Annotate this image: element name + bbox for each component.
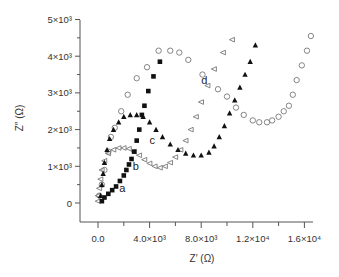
filled-triangle-marker — [199, 152, 204, 157]
open-triangle-marker — [152, 164, 157, 169]
open-triangle-marker — [162, 164, 167, 169]
x-tick-label: 4.0×10³ — [133, 233, 166, 244]
open-circle-marker — [257, 120, 262, 125]
open-triangle-marker — [229, 37, 234, 42]
open-circle-marker — [264, 120, 269, 125]
filled-triangle-marker — [116, 119, 121, 124]
open-triangle-marker — [193, 114, 198, 119]
filled-triangle-marker — [183, 151, 188, 156]
filled-triangle-marker — [107, 136, 112, 141]
open-triangle-marker — [220, 50, 225, 55]
y-tick-label: 1×10³ — [47, 161, 72, 172]
open-triangle-marker — [188, 127, 193, 132]
series-label-b: b — [133, 160, 139, 172]
filled-triangle-marker — [104, 147, 109, 152]
filled-triangle-marker — [191, 152, 196, 157]
open-circle-marker — [250, 118, 255, 123]
series-label-a: a — [119, 182, 126, 194]
filled-square-marker — [134, 138, 139, 143]
filled-triangle-marker — [217, 134, 222, 139]
filled-triangle-marker — [206, 149, 211, 154]
open-circle-marker — [177, 50, 182, 55]
x-tick-label: 8.0×10³ — [185, 233, 218, 244]
series-a — [100, 59, 163, 203]
filled-square-marker — [122, 173, 127, 178]
filled-triangle-marker — [175, 147, 180, 152]
y-tick-label: 5×10³ — [47, 14, 72, 25]
open-circle-marker — [224, 94, 229, 99]
open-circle-marker — [168, 48, 173, 53]
open-circle-marker — [241, 112, 246, 117]
filled-square-marker — [146, 89, 151, 94]
filled-triangle-marker — [153, 127, 158, 132]
filled-triangle-marker — [160, 134, 165, 139]
filled-triangle-marker — [128, 112, 133, 117]
x-tick-label: 0.0 — [91, 233, 104, 244]
open-circle-marker — [233, 105, 238, 110]
open-circle-marker — [299, 63, 304, 68]
open-circle-marker — [308, 33, 313, 38]
y-tick-label: 2×10³ — [47, 124, 72, 135]
open-triangle-marker — [211, 67, 216, 72]
filled-triangle-marker — [121, 114, 126, 119]
open-circle-marker — [290, 92, 295, 97]
series-labels: abcd — [119, 74, 207, 194]
filled-square-marker — [140, 113, 145, 118]
filled-triangle-marker — [222, 123, 227, 128]
y-tick-label: 4×10³ — [47, 51, 72, 62]
open-triangle-marker — [136, 153, 141, 158]
open-triangle-marker — [167, 160, 172, 165]
open-circle-marker — [276, 114, 281, 119]
series-label-d: d — [201, 74, 207, 86]
filled-triangle-marker — [100, 171, 105, 176]
filled-square-marker — [137, 127, 142, 132]
filled-triangle-marker — [232, 97, 237, 102]
tick-labels: 01×10³2×10³3×10³4×10³5×10³0.04.0×10³8.0×… — [47, 14, 321, 244]
open-triangle-marker — [183, 138, 188, 143]
open-circle-marker — [144, 65, 149, 70]
filled-triangle-marker — [248, 59, 253, 64]
open-triangle-marker — [121, 146, 126, 151]
filled-triangle-marker — [211, 143, 216, 148]
open-triangle-marker — [198, 100, 203, 105]
axis-ticks — [75, 20, 304, 229]
open-circle-marker — [294, 77, 299, 82]
open-circle-marker — [186, 57, 191, 62]
open-circle-marker — [119, 109, 124, 114]
filled-triangle-marker — [227, 110, 232, 115]
open-triangle-marker — [126, 146, 131, 151]
x-axis-title: Z′ (Ω) — [190, 253, 215, 264]
y-tick-label: 0 — [67, 198, 72, 209]
open-circle-marker — [286, 103, 291, 108]
filled-triangle-marker — [111, 127, 116, 132]
open-triangle-marker — [173, 155, 178, 160]
open-triangle-marker — [157, 165, 162, 170]
filled-square-marker — [151, 74, 156, 79]
open-circle-marker — [304, 48, 309, 53]
open-triangle-marker — [147, 161, 152, 166]
y-tick-label: 3×10³ — [47, 87, 72, 98]
open-triangle-marker — [95, 199, 100, 204]
filled-square-marker — [158, 59, 163, 64]
filled-square-marker — [114, 184, 119, 189]
filled-triangle-marker — [134, 112, 139, 117]
x-tick-label: 1.2×10⁴ — [236, 233, 269, 244]
filled-square-marker — [142, 103, 147, 108]
open-circle-marker — [215, 87, 220, 92]
filled-square-marker — [124, 168, 129, 173]
filled-triangle-marker — [242, 72, 247, 77]
open-triangle-marker — [98, 177, 103, 182]
filled-triangle-marker — [237, 84, 242, 89]
open-circle-marker — [125, 92, 130, 97]
open-circle-marker — [156, 48, 161, 53]
axes — [80, 20, 313, 222]
series-b — [95, 37, 234, 203]
x-tick-label: 1.6×10⁴ — [288, 233, 321, 244]
y-axis-title: Z″ (Ω) — [14, 105, 25, 132]
filled-triangle-marker — [253, 42, 258, 47]
open-circle-marker — [281, 109, 286, 114]
open-triangle-marker — [142, 157, 147, 162]
nyquist-chart: 01×10³2×10³3×10³4×10³5×10³0.04.0×10³8.0×… — [0, 0, 339, 277]
filled-square-marker — [127, 162, 132, 167]
filled-triangle-marker — [168, 141, 173, 146]
